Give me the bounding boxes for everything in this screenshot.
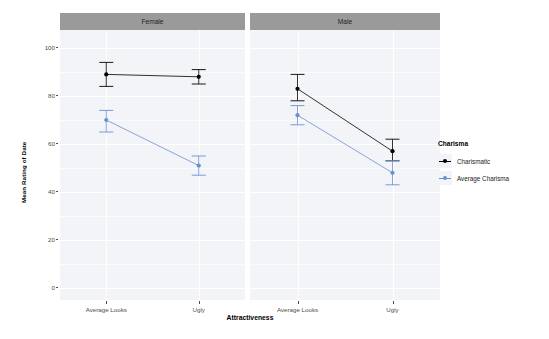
series-line xyxy=(106,120,199,166)
series-line xyxy=(298,89,393,151)
series-charismatic xyxy=(99,62,206,86)
legend-key-dot xyxy=(443,176,447,180)
x-axis-title: Attractiveness xyxy=(60,314,440,321)
panel-female xyxy=(60,30,245,300)
y-axis-tick-label: 60 xyxy=(48,139,55,149)
panel-male xyxy=(250,30,440,300)
legend-key-icon xyxy=(438,171,452,185)
data-point xyxy=(295,87,299,91)
y-axis-tick-mark xyxy=(56,239,59,240)
x-axis-tick-mark xyxy=(199,301,200,304)
x-axis-tick-mark xyxy=(106,301,107,304)
x-axis-tick-label: Ugly xyxy=(159,306,239,313)
data-point xyxy=(104,118,108,122)
legend-item-label: Charismatic xyxy=(457,158,490,165)
y-axis-tick-label: 40 xyxy=(48,187,55,197)
series-line xyxy=(106,74,199,76)
legend-key-icon xyxy=(438,154,452,168)
y-axis-tick-label: 80 xyxy=(48,91,55,101)
chart-root: Mean Rating of Date 100806040200 FemaleA… xyxy=(0,0,549,339)
y-axis: 100806040200 xyxy=(0,0,58,339)
y-axis-tick-label: 20 xyxy=(48,235,55,245)
legend: Charisma CharismaticAverage Charisma xyxy=(438,140,543,188)
series-line xyxy=(298,115,393,173)
data-point xyxy=(104,72,108,76)
y-axis-tick-label: 0 xyxy=(52,283,55,293)
facet-strip-male: Male xyxy=(250,13,440,30)
legend-key-dot xyxy=(443,159,447,163)
x-axis-tick-label: Average Looks xyxy=(66,306,146,313)
legend-title: Charisma xyxy=(438,140,543,147)
legend-item-label: Average Charisma xyxy=(457,175,509,182)
data-point xyxy=(390,149,394,153)
facet-strip-female: Female xyxy=(60,13,245,30)
x-axis-tick-mark xyxy=(298,301,299,304)
y-axis-tick-mark xyxy=(56,287,59,288)
y-axis-tick-mark xyxy=(56,191,59,192)
series-charismatic xyxy=(291,74,400,160)
y-axis-tick-mark xyxy=(56,47,59,48)
series-average-charisma xyxy=(99,110,206,175)
legend-item-charismatic[interactable]: Charismatic xyxy=(438,154,543,168)
series-layer xyxy=(60,30,245,300)
y-axis-tick-mark xyxy=(56,95,59,96)
facet-strip-label: Male xyxy=(338,18,352,25)
data-point xyxy=(295,113,299,117)
y-axis-tick-mark xyxy=(56,143,59,144)
data-point xyxy=(197,75,201,79)
legend-item-average-charisma[interactable]: Average Charisma xyxy=(438,171,543,185)
facet-strip-label: Female xyxy=(142,18,164,25)
data-point xyxy=(197,164,201,168)
x-axis-tick-label: Average Looks xyxy=(258,306,338,313)
x-axis-tick-mark xyxy=(393,301,394,304)
y-axis-tick-label: 100 xyxy=(45,43,55,53)
data-point xyxy=(390,171,394,175)
legend-items: CharismaticAverage Charisma xyxy=(438,154,543,185)
series-layer xyxy=(250,30,440,300)
x-axis-tick-label: Ugly xyxy=(353,306,433,313)
